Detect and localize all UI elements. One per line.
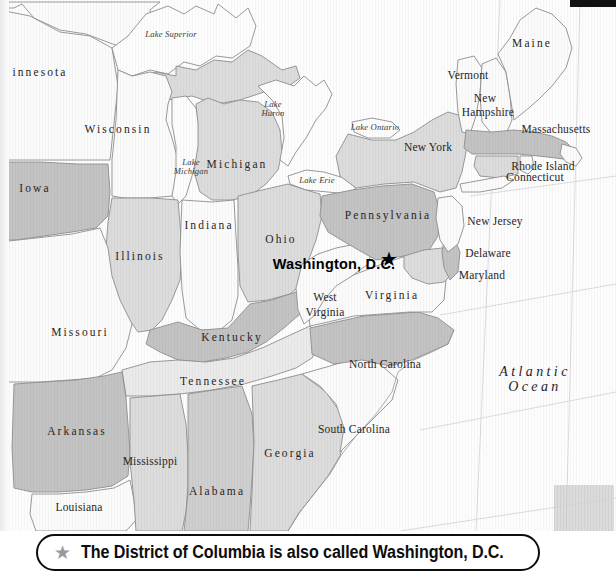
map-figure: innesotaWisconsinMichiganIowaIllinoisInd… [0, 0, 616, 577]
scan-edge-bar [570, 0, 616, 7]
caption-star-icon: ★ [54, 543, 71, 562]
state-shape-mississippi [130, 394, 188, 531]
state-shape-connecticut [474, 156, 518, 178]
caption-bar: ★ The District of Columbia is also calle… [36, 534, 540, 571]
caption-text: The District of Columbia is also called … [81, 542, 504, 563]
scan-corner-smudge [554, 485, 614, 531]
state-shape-indiana [180, 200, 238, 330]
state-shape-iowa [0, 162, 110, 240]
state-shape-arkansas [12, 372, 130, 492]
map-vector-layer [0, 0, 616, 531]
state-shape-alabama [184, 386, 254, 531]
map-canvas: innesotaWisconsinMichiganIowaIllinoisInd… [0, 0, 616, 531]
